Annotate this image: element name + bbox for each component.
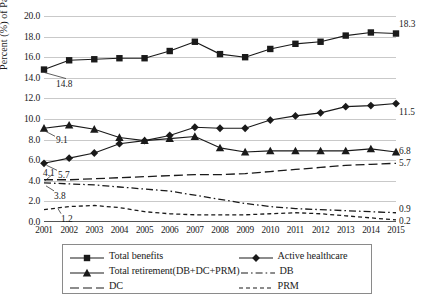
data-point xyxy=(367,102,375,110)
legend-item-total-retirement[interactable]: Total retirement(DB+DC+PRM) xyxy=(69,263,240,278)
data-point xyxy=(40,159,48,167)
legend-row: Total retirement(DB+DC+PRM) DB xyxy=(69,263,365,278)
legend: Total benefits Active healthcare Total r… xyxy=(62,244,372,294)
y-axis-tick: 14.0 xyxy=(0,73,40,83)
data-point xyxy=(192,39,198,45)
chart-root: Percent (%) of Pay 0.02.04.06.08.010.012… xyxy=(0,0,440,300)
series-total-benefits xyxy=(41,29,399,72)
y-axis-tick: 4.0 xyxy=(0,176,40,186)
series-dc xyxy=(44,163,396,179)
y-axis-tick: 20.0 xyxy=(0,11,40,21)
data-point xyxy=(368,29,374,35)
y-axis-tick: 16.0 xyxy=(0,52,40,62)
legend-key-dashdot-icon xyxy=(240,265,276,277)
legend-item-dc[interactable]: DC xyxy=(69,278,238,293)
y-axis-tick: 6.0 xyxy=(0,155,40,165)
data-point xyxy=(267,46,273,52)
data-point xyxy=(393,30,399,36)
data-point xyxy=(41,66,47,72)
data-point xyxy=(367,145,375,153)
legend-row: DC PRM xyxy=(69,278,365,293)
legend-label: DB xyxy=(280,265,294,276)
y-axis-tick: 12.0 xyxy=(0,93,40,103)
start-label-total-benefits: 14.8 xyxy=(56,80,72,89)
data-point xyxy=(317,39,323,45)
data-point xyxy=(343,32,349,38)
data-point xyxy=(65,121,73,129)
legend-row: Total benefits Active healthcare xyxy=(69,248,365,263)
data-point xyxy=(216,124,224,132)
x-axis-line xyxy=(44,221,396,222)
legend-key-longdash-icon xyxy=(69,280,105,292)
legend-item-total-benefits[interactable]: Total benefits xyxy=(69,248,238,263)
legend-label: PRM xyxy=(278,280,299,291)
legend-item-prm[interactable]: PRM xyxy=(238,278,365,293)
data-point xyxy=(317,109,325,117)
data-point xyxy=(241,124,249,132)
y-axis-tick: 18.0 xyxy=(0,32,40,42)
series-active-healthcare xyxy=(40,100,400,168)
data-point xyxy=(242,54,248,60)
start-label-dc: 4.1 xyxy=(43,169,55,178)
plot-area xyxy=(44,16,396,222)
end-label-total-benefits: 18.3 xyxy=(399,20,415,29)
data-point xyxy=(116,140,124,148)
legend-key-shortdash-icon xyxy=(238,280,274,292)
data-point xyxy=(90,149,98,157)
start-label-total-retirement: 9.1 xyxy=(56,136,68,145)
end-label-db: 0.9 xyxy=(399,205,411,214)
start-label-db: 3.8 xyxy=(54,192,66,201)
data-point xyxy=(191,123,199,131)
end-label-total-retirement-db-dc-prm: 6.8 xyxy=(399,147,411,156)
legend-label: DC xyxy=(109,280,123,291)
data-point xyxy=(91,56,97,62)
legend-key-triangle-icon xyxy=(69,265,105,277)
end-label-dc: 5.7 xyxy=(399,159,411,168)
series-lines xyxy=(44,16,396,222)
data-point xyxy=(65,154,73,162)
data-point xyxy=(216,144,224,152)
legend-item-active-healthcare[interactable]: Active healthcare xyxy=(238,248,365,263)
data-point xyxy=(167,48,173,54)
y-axis-tick: 2.0 xyxy=(0,196,40,206)
series-prm xyxy=(44,206,396,220)
legend-key-square-icon xyxy=(69,250,105,262)
data-point xyxy=(116,55,122,61)
data-point xyxy=(191,132,199,140)
data-point xyxy=(266,116,274,124)
x-axis-tick-labels: 2001200220032004200520062007200820092010… xyxy=(44,224,396,238)
legend-label: Total retirement(DB+DC+PRM) xyxy=(109,265,240,276)
end-label-active-healthcare: 11.5 xyxy=(399,108,415,117)
series-db xyxy=(44,183,396,213)
data-point xyxy=(141,55,147,61)
data-point xyxy=(66,57,72,63)
data-point xyxy=(217,51,223,57)
legend-label: Active healthcare xyxy=(278,250,348,261)
y-axis-tick: 10.0 xyxy=(0,114,40,124)
y-axis-tick: 8.0 xyxy=(0,135,40,145)
start-label-prm: 1.2 xyxy=(61,215,73,224)
legend-label: Total benefits xyxy=(109,250,163,261)
start-label-active-healthcare: 5.7 xyxy=(58,171,70,180)
legend-item-db[interactable]: DB xyxy=(240,263,365,278)
data-point xyxy=(292,112,300,120)
data-point xyxy=(342,103,350,111)
data-point xyxy=(292,41,298,47)
legend-key-diamond-icon xyxy=(238,250,274,262)
x-axis-tick: 2015 xyxy=(381,224,411,236)
